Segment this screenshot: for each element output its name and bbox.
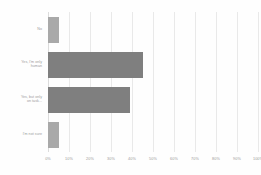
x-tick-label: 100% [246,156,261,162]
bar-row [48,122,258,148]
category-label: I'm not sure [2,132,42,137]
x-axis-tick-labels: 0%10%20%30%40%50%60%70%80%90%100% [0,156,261,168]
category-label: Yes, I'm only human [2,60,42,69]
bar-chart: NoYes, I'm only humanYes, but only on ta… [0,0,261,175]
bar-row [48,17,258,43]
bar [48,122,59,148]
plot-area [48,12,258,152]
bar-row [48,52,258,78]
bar [48,17,59,43]
bar-row [48,87,258,113]
gridline-100 [258,12,259,152]
category-label: No [2,27,42,32]
bar [48,87,130,113]
bar [48,52,143,78]
category-label: Yes, but only on task... [2,95,42,104]
